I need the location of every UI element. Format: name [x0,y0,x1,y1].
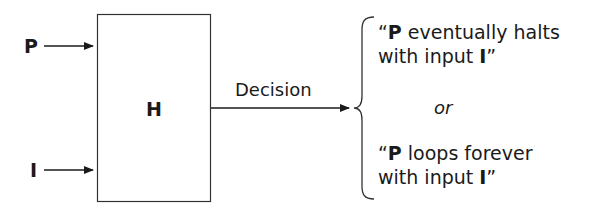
or-separator: or [434,97,452,118]
decision-label: Decision [235,81,312,99]
machine-label: H [146,100,162,119]
input-p-label: P [24,37,38,56]
brace-icon [354,17,374,199]
input-i-label: I [30,161,37,180]
outcome-loops: “P loops forever with input I” [378,141,533,189]
outcome-halts: “P eventually halts with input I” [378,20,560,68]
